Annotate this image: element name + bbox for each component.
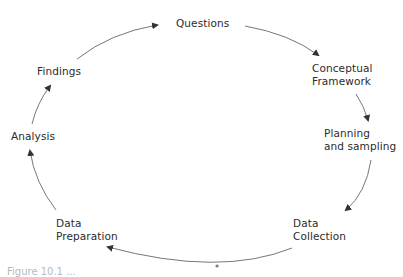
arrow-collection-to-preparation [108, 247, 292, 262]
arrow-findings-to-questions [77, 25, 157, 59]
node-label-line1: Data [293, 217, 346, 230]
arrow-framework-to-planning [356, 94, 368, 120]
arrow-questions-to-framework [245, 26, 318, 55]
node-label-line2: Collection [293, 230, 346, 243]
research-cycle-diagram: Questions Conceptual Framework Planning … [0, 0, 403, 277]
node-analysis: Analysis [11, 130, 55, 143]
node-label-line1: Data [56, 217, 118, 230]
node-label: Questions [176, 17, 229, 29]
node-label-line2: Preparation [56, 230, 118, 243]
node-label-line2: Framework [312, 75, 372, 88]
node-questions: Questions [176, 17, 229, 30]
arrow-analysis-to-findings [32, 86, 50, 124]
node-findings: Findings [37, 65, 81, 78]
figure-caption: Figure 10.1 ... [7, 266, 76, 277]
node-label: Findings [37, 65, 81, 77]
arrow-planning-to-collection [346, 160, 371, 210]
node-label-line2: and sampling [324, 140, 396, 153]
node-planning-sampling: Planning and sampling [324, 127, 396, 153]
node-data-preparation: Data Preparation [56, 217, 118, 243]
node-label-line1: Planning [324, 127, 396, 140]
node-label-line1: Conceptual [312, 62, 372, 75]
node-label: Analysis [11, 130, 55, 142]
arrow-preparation-to-analysis [30, 151, 56, 210]
node-data-collection: Data Collection [293, 217, 346, 243]
node-conceptual-framework: Conceptual Framework [312, 62, 372, 88]
caption-mark: * [215, 264, 219, 273]
